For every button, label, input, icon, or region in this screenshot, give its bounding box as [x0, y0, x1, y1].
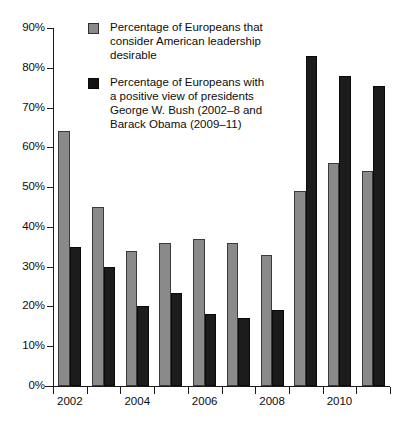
bar-2006-series-1: [205, 314, 217, 386]
y-axis-tick-label: 60%: [3, 141, 45, 153]
bar-2011-series-0: [362, 171, 374, 386]
x-axis-tick: [289, 387, 290, 394]
legend-label-line: Barack Obama (2009–11): [110, 117, 298, 131]
bar-2007-series-0: [227, 243, 239, 386]
y-axis-tick-label: 20%: [3, 300, 45, 312]
y-axis-tick-label: 0%: [3, 380, 45, 392]
x-axis-tick: [356, 387, 357, 394]
bar-2008-series-0: [261, 255, 273, 386]
bar-2010-series-0: [328, 163, 340, 386]
bar-2003-series-1: [104, 267, 116, 386]
x-axis-tick: [222, 387, 223, 394]
x-axis-tick: [120, 387, 121, 394]
legend-label-line: George W. Bush (2002–8 and: [110, 103, 298, 117]
legend-swatch-icon-1: [88, 78, 99, 89]
x-axis-tick: [53, 387, 54, 394]
x-axis-tick: [188, 387, 189, 394]
y-axis-tick-label: 50%: [3, 181, 45, 193]
bar-2003-series-0: [92, 207, 104, 386]
x-axis-tick: [87, 387, 88, 394]
x-axis-tick-label-2008: 2008: [242, 396, 302, 408]
x-axis-tick: [255, 387, 256, 394]
legend-label-0: Percentage of Europeans thatconsider Ame…: [110, 20, 298, 63]
bar-2007-series-1: [238, 318, 250, 386]
x-axis-tick: [154, 387, 155, 394]
bar-2006-series-0: [193, 239, 205, 386]
x-axis-tick-label-2010: 2010: [309, 396, 369, 408]
x-axis-tick: [323, 387, 324, 394]
bar-2009-series-0: [294, 191, 306, 386]
legend-item-0: Percentage of Europeans thatconsider Ame…: [88, 20, 298, 63]
bar-2011-series-1: [373, 86, 385, 386]
bar-2002-series-1: [70, 247, 82, 386]
bar-2002-series-0: [58, 131, 70, 386]
x-axis-tick-label-2006: 2006: [175, 396, 235, 408]
legend-label-1: Percentage of Europeans witha positive v…: [110, 75, 298, 132]
bar-2004-series-0: [126, 251, 138, 386]
x-axis-tick-label-2002: 2002: [40, 396, 100, 408]
y-axis-tick-label: 70%: [3, 102, 45, 114]
legend-label-line: Percentage of Europeans that: [110, 20, 298, 34]
bar-2010-series-1: [339, 76, 351, 386]
x-axis-line: [45, 386, 390, 387]
legend-item-1: Percentage of Europeans witha positive v…: [88, 75, 298, 132]
y-axis-tick-label: 10%: [3, 340, 45, 352]
y-axis-tick-label: 40%: [3, 221, 45, 233]
bar-2004-series-1: [137, 306, 149, 386]
y-axis-tick-label: 90%: [3, 22, 45, 34]
y-axis-tick-label: 30%: [3, 261, 45, 273]
bar-2008-series-1: [272, 310, 284, 386]
legend-label-line: Percentage of Europeans with: [110, 75, 298, 89]
legend-label-line: a positive view of presidents: [110, 89, 298, 103]
legend-label-line: desirable: [110, 48, 298, 62]
chart-legend: Percentage of Europeans thatconsider Ame…: [88, 20, 298, 143]
bar-2005-series-1: [171, 293, 183, 386]
legend-label-line: consider American leadership: [110, 34, 298, 48]
bar-2005-series-0: [159, 243, 171, 386]
x-axis-tick: [390, 387, 391, 394]
x-axis-tick-label-2004: 2004: [107, 396, 167, 408]
bar-chart: 0%10%20%30%40%50%60%70%80%90% 2002200420…: [0, 0, 413, 437]
legend-swatch-icon-0: [88, 23, 99, 34]
y-axis-tick-label: 80%: [3, 62, 45, 74]
bar-2009-series-1: [306, 56, 318, 386]
